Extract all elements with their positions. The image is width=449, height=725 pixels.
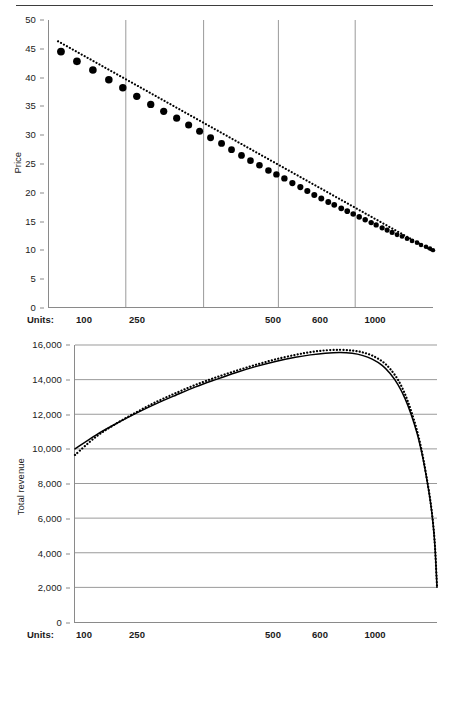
price-data-point — [238, 152, 245, 159]
price-data-point — [374, 222, 379, 227]
revenue-y-tick-label: 6,000 — [38, 514, 62, 524]
price-data-point — [311, 192, 317, 198]
revenue-y-tick-label: 10,000 — [32, 445, 62, 455]
price-trend-line — [58, 41, 433, 251]
price-data-point — [410, 239, 415, 244]
price-data-point — [331, 202, 337, 208]
revenue-x-tick-label: 250 — [129, 630, 145, 640]
revenue-y-tick-label: 0 — [57, 618, 62, 628]
price-y-tick-label: 30 — [25, 130, 36, 140]
price-data-point — [405, 236, 410, 241]
price-data-point — [390, 230, 395, 235]
price-data-point — [207, 134, 214, 141]
price-data-point — [415, 240, 420, 245]
price-data-point — [89, 66, 97, 74]
price-y-tick-label: 10 — [25, 246, 36, 256]
revenue-y-tick-mark — [66, 623, 70, 624]
price-plot-svg — [49, 20, 433, 307]
price-data-point — [119, 84, 126, 91]
revenue-x-tick-label: 1000 — [364, 630, 385, 640]
price-data-point — [281, 175, 287, 181]
price-data-point — [400, 234, 405, 239]
revenue-x-tick-label: 600 — [312, 630, 328, 640]
price-data-point — [273, 171, 279, 177]
price-data-point — [385, 228, 390, 233]
price-y-tick-mark — [40, 221, 44, 222]
price-x-tick-label: 100 — [76, 315, 92, 325]
header-rule — [16, 5, 433, 6]
revenue-y-tick-label: 12,000 — [32, 410, 62, 420]
revenue-y-tick-label: 8,000 — [38, 479, 62, 489]
revenue-actual-curve — [75, 352, 437, 587]
revenue-x-tick-label: 500 — [265, 630, 281, 640]
price-data-point — [431, 248, 435, 252]
price-data-point — [338, 205, 344, 211]
price-data-point — [395, 232, 400, 237]
revenue-y-tick-mark — [66, 553, 70, 554]
revenue-y-tick-mark — [66, 379, 70, 380]
price-data-point — [73, 57, 81, 65]
price-data-point — [57, 48, 65, 56]
price-x-tick-label: 250 — [129, 315, 145, 325]
price-y-axis-title: Price — [13, 139, 23, 187]
revenue-y-tick-label: 2,000 — [38, 584, 62, 594]
price-data-point — [256, 162, 263, 169]
price-x-tick-label: 1000 — [364, 315, 385, 325]
price-x-tick-label: 500 — [265, 315, 281, 325]
price-data-point — [185, 121, 192, 128]
price-y-tick-label: 5 — [31, 274, 36, 284]
price-y-tick-label: 40 — [25, 73, 36, 83]
price-data-point — [218, 140, 225, 147]
revenue-chart: 02,0004,0006,0008,00010,00012,00014,0001… — [0, 340, 449, 720]
revenue-x-axis-title: Units: — [27, 630, 54, 640]
revenue-y-tick-label: 14,000 — [32, 375, 62, 385]
price-y-tick-mark — [40, 250, 44, 251]
price-y-tick-label: 20 — [25, 188, 36, 198]
price-x-axis-title: Units: — [27, 315, 54, 325]
revenue-y-tick-label: 16,000 — [32, 340, 62, 350]
price-y-tick-mark — [40, 20, 44, 21]
price-data-point — [424, 244, 429, 249]
price-plot-area — [48, 20, 433, 308]
price-y-tick-mark — [40, 48, 44, 49]
revenue-y-tick-label: 4,000 — [38, 549, 62, 559]
figure-page: 05101520253035404550 Price Units: 100250… — [0, 0, 449, 725]
revenue-y-tick-mark — [66, 414, 70, 415]
revenue-y-tick-mark — [66, 518, 70, 519]
price-data-point — [147, 101, 154, 108]
price-y-tick-label: 50 — [25, 15, 36, 25]
price-data-point — [160, 108, 167, 115]
revenue-plot-svg — [75, 345, 437, 622]
price-y-tick-mark — [40, 77, 44, 78]
price-data-point — [419, 243, 424, 248]
price-data-point — [247, 157, 254, 164]
price-data-point — [356, 214, 362, 220]
price-y-tick-label: 35 — [25, 102, 36, 112]
price-y-tick-mark — [40, 279, 44, 280]
price-data-point — [380, 225, 385, 230]
price-data-point — [133, 93, 140, 100]
price-x-tick-label: 600 — [312, 315, 328, 325]
price-data-point — [196, 128, 203, 135]
revenue-y-axis-ticks: 02,0004,0006,0008,00010,00012,00014,0001… — [0, 340, 70, 720]
revenue-y-tick-mark — [66, 588, 70, 589]
price-data-point — [289, 180, 295, 186]
price-y-tick-mark — [40, 106, 44, 107]
price-y-tick-mark — [40, 164, 44, 165]
price-y-tick-label: 0 — [31, 303, 36, 313]
price-data-point — [228, 146, 235, 153]
price-chart: 05101520253035404550 Price Units: 100250… — [0, 12, 449, 335]
price-data-point — [362, 217, 367, 222]
price-data-point — [297, 184, 303, 190]
price-y-tick-label: 45 — [25, 44, 36, 54]
price-data-point — [173, 115, 180, 122]
revenue-y-tick-mark — [66, 449, 70, 450]
price-y-tick-label: 25 — [25, 159, 36, 169]
revenue-x-tick-label: 100 — [76, 630, 92, 640]
price-y-tick-mark — [40, 308, 44, 309]
price-data-point — [368, 220, 373, 225]
price-data-point — [304, 188, 310, 194]
price-y-tick-label: 15 — [25, 217, 36, 227]
revenue-plot-area — [74, 345, 437, 623]
price-data-point — [105, 76, 113, 84]
